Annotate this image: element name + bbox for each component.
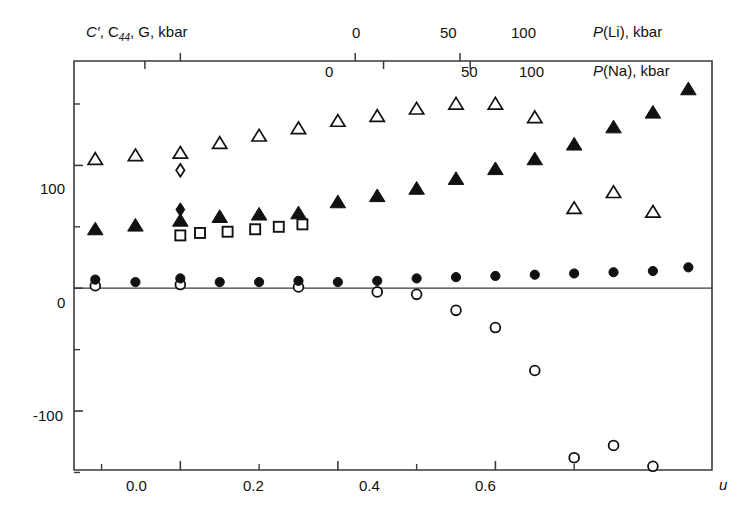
point-filled-triangle-15 [681, 82, 697, 95]
y-tick-label-0: 0 [57, 295, 65, 310]
point-open-square-1 [195, 228, 205, 238]
point-filled-triangle-8 [409, 182, 425, 195]
point-filled-triangle-12 [566, 137, 582, 150]
point-filled-circle-14 [648, 266, 657, 275]
point-filled-circle-0 [91, 275, 100, 284]
point-open-triangle-10 [488, 97, 502, 109]
p-na-units: (Na), kbar [603, 62, 670, 79]
point-open-circle-10 [648, 461, 658, 471]
x-tick-label-0.0: 0.0 [126, 478, 147, 493]
point-filled-triangle-0 [88, 222, 104, 235]
point-filled-triangle-10 [488, 162, 504, 175]
point-filled-circle-1 [131, 277, 140, 286]
y-tick-label-100: 100 [40, 181, 65, 196]
point-open-square-3 [250, 224, 260, 234]
point-filled-circle-13 [609, 268, 618, 277]
point-filled-circle-6 [333, 277, 342, 286]
point-filled-circle-10 [491, 271, 500, 280]
pli-tick-label-0: 0 [352, 25, 360, 40]
point-filled-triangle-4 [251, 207, 266, 220]
y-axis-title-c-prime: C′ [86, 23, 100, 40]
point-open-circle-5 [451, 305, 461, 315]
pli-tick-label-100: 100 [511, 25, 536, 40]
point-open-circle-4 [412, 289, 422, 299]
point-open-triangle-8 [409, 102, 423, 114]
point-filled-circle-4 [254, 277, 263, 286]
point-open-triangle-11 [528, 111, 542, 123]
point-open-square-5 [297, 219, 307, 229]
pna-tick-label-100: 100 [519, 64, 544, 79]
point-filled-circle-7 [373, 276, 382, 285]
point-open-diamond-0 [176, 164, 184, 177]
point-open-triangle-0 [88, 153, 102, 165]
point-filled-triangle-5 [291, 206, 307, 219]
point-filled-circle-2 [176, 274, 185, 283]
p-na-axis-title: P(Na), kbar [593, 63, 670, 78]
pna-tick-label-50: 50 [461, 64, 478, 79]
point-filled-circle-5 [294, 276, 303, 285]
pna-tick-label-0: 0 [325, 64, 333, 79]
point-filled-circle-9 [451, 273, 460, 282]
y-axis-title: C′, C44, G, kbar [86, 24, 187, 43]
plot-frame [74, 61, 712, 470]
point-open-circle-3 [372, 287, 382, 297]
point-open-triangle-4 [252, 129, 266, 141]
point-open-triangle-13 [606, 186, 620, 198]
point-filled-circle-8 [412, 274, 421, 283]
x-tick-label-0.2: 0.2 [243, 478, 264, 493]
point-filled-circle-12 [570, 269, 579, 278]
point-filled-circle-15 [684, 263, 693, 272]
y-axis-title-sep: , C [100, 23, 119, 40]
point-open-square-0 [175, 230, 185, 240]
pli-tick-label-50: 50 [440, 25, 457, 40]
point-filled-triangle-13 [606, 120, 622, 133]
point-open-triangle-1 [128, 149, 142, 161]
point-filled-triangle-9 [448, 172, 464, 185]
point-open-circle-8 [569, 453, 579, 463]
x-axis-title: u [719, 477, 727, 492]
point-open-square-4 [274, 222, 284, 232]
point-open-square-2 [223, 227, 233, 237]
point-open-triangle-9 [449, 97, 463, 109]
point-open-circle-7 [530, 366, 540, 376]
point-filled-circle-3 [215, 277, 224, 286]
y-axis-title-subscript: 44 [119, 32, 130, 43]
p-li-symbol: P [593, 23, 603, 40]
y-axis-title-tail: , G, kbar [130, 23, 188, 40]
point-filled-triangle-3 [212, 210, 228, 223]
point-open-triangle-5 [291, 122, 305, 134]
point-filled-triangle-14 [645, 105, 661, 118]
point-filled-triangle-11 [527, 152, 543, 165]
point-open-circle-6 [490, 323, 500, 333]
p-na-symbol: P [593, 62, 603, 79]
point-open-triangle-7 [370, 110, 384, 122]
point-filled-triangle-2 [173, 214, 189, 227]
point-filled-triangle-1 [128, 218, 144, 231]
point-open-triangle-6 [331, 115, 345, 127]
point-open-circle-9 [609, 441, 619, 451]
y-tick-label-minus100: -100 [33, 408, 63, 423]
x-tick-label-0.4: 0.4 [359, 478, 380, 493]
p-li-axis-title: P(Li), kbar [593, 24, 662, 39]
x-tick-label-0.6: 0.6 [475, 478, 496, 493]
point-open-triangle-3 [213, 137, 227, 149]
p-li-units: (Li), kbar [603, 23, 662, 40]
point-filled-triangle-7 [369, 189, 385, 202]
point-filled-triangle-6 [330, 195, 346, 208]
point-open-triangle-12 [567, 202, 581, 214]
point-open-triangle-2 [173, 147, 187, 159]
point-filled-circle-11 [530, 270, 539, 279]
point-open-triangle-14 [646, 206, 660, 218]
